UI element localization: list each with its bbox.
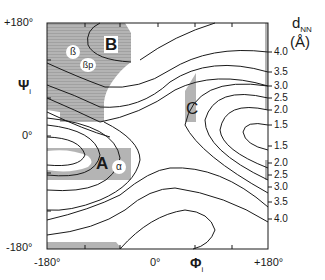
region-b-label: B (104, 36, 118, 53)
scale-label: 4.0 (274, 214, 288, 224)
alpha-marker: α (112, 160, 126, 174)
colorbar-unit: (Å) (290, 35, 310, 49)
y-tick-bottom: -180° (6, 242, 32, 253)
scale-label: 3.5 (274, 197, 288, 207)
scale-label: 2.0 (274, 158, 288, 168)
scale-label: 2.0 (274, 105, 288, 115)
scale-label: 2.5 (274, 170, 288, 180)
region-a-label: A (96, 155, 108, 172)
region-c-label: C (186, 100, 198, 117)
scale-label: 3.0 (274, 182, 288, 192)
scale-label: 3.0 (274, 81, 288, 91)
scale-label: 4.0 (274, 47, 288, 57)
beta-p-marker: ßp (80, 58, 96, 72)
scale-label: 3.5 (274, 67, 288, 77)
x-tick-zero: 0° (150, 257, 161, 268)
y-tick-top: +180° (4, 17, 33, 28)
x-tick-left: -180° (34, 257, 60, 268)
y-tick-zero: 0° (22, 130, 33, 141)
x-axis-label: Φi (190, 256, 203, 277)
y-axis-label: Ψi (18, 78, 31, 99)
scale-label: 2.5 (274, 93, 288, 103)
scale-label: 1.5 (274, 141, 288, 151)
beta-marker: ß (66, 45, 80, 59)
x-tick-right: +180° (254, 257, 283, 268)
scale-label: 1.5 (274, 120, 288, 130)
